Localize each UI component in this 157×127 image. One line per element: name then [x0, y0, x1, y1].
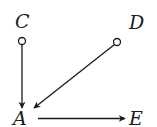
node-c-circle-marker: [19, 38, 26, 45]
node-label-c: C: [15, 10, 30, 32]
node-label-e: E: [128, 107, 143, 127]
causal-diagram: C D A E: [0, 0, 157, 127]
node-label-d: D: [128, 11, 144, 33]
node-d-circle-marker: [114, 39, 121, 46]
node-label-a: A: [11, 107, 27, 127]
edge-d-to-a-arrow: [34, 45, 115, 109]
